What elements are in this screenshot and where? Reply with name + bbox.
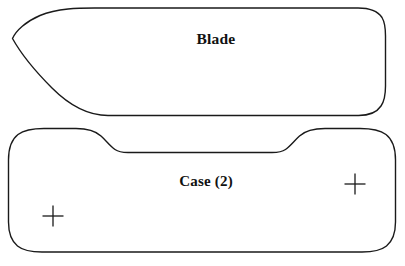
blade-piece-outline bbox=[13, 8, 386, 116]
pattern-diagram: Blade Case (2) bbox=[0, 0, 405, 266]
case-piece-label: Case (2) bbox=[179, 173, 233, 190]
blade-piece-label: Blade bbox=[197, 30, 236, 48]
case-piece-outline bbox=[9, 129, 396, 253]
